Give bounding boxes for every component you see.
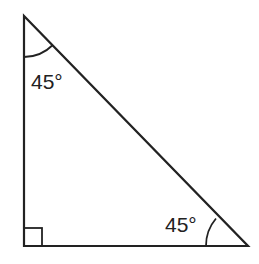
bottom-right-angle-label: 45° — [165, 213, 197, 236]
bottom-right-angle-arc — [206, 219, 216, 247]
triangle — [24, 16, 248, 246]
top-angle-arc — [24, 45, 53, 57]
top-angle-label: 45° — [31, 70, 63, 93]
right-angle-marker — [24, 228, 42, 246]
triangle-diagram: 45° 45° — [0, 0, 259, 264]
